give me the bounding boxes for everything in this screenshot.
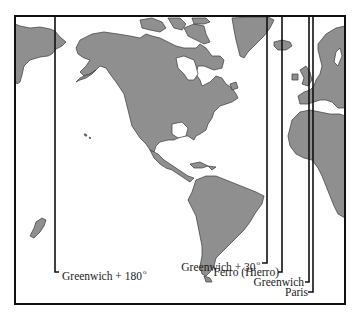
hawaii-islands xyxy=(84,134,91,139)
meridian-greenwich-30 xyxy=(262,16,267,263)
siberia-landmass xyxy=(15,24,66,84)
arctic-islands xyxy=(168,18,186,30)
new-zealand-landmass xyxy=(30,218,46,238)
meridian-ferro xyxy=(278,16,282,272)
label-text: Paris xyxy=(285,286,308,298)
british-isles xyxy=(300,66,312,86)
ireland xyxy=(292,74,298,80)
caribbean-islands xyxy=(190,162,208,168)
arctic-islands xyxy=(184,24,210,44)
north-america-landmass xyxy=(76,32,238,152)
arctic-islands xyxy=(140,18,166,32)
tierra-del-fuego xyxy=(204,276,212,282)
caribbean-islands xyxy=(208,166,216,170)
label-paris: Paris xyxy=(285,286,308,298)
label-text: Greenwich + 180 xyxy=(62,270,142,282)
arctic-islands xyxy=(192,18,210,24)
iceland-landmass xyxy=(274,40,292,50)
degree-symbol: o xyxy=(143,268,147,276)
central-america-landmass xyxy=(150,150,194,182)
label-greenwich-180: Greenwich + 180o xyxy=(62,266,146,282)
africa-landmass xyxy=(288,110,345,218)
meridian-map xyxy=(0,0,359,320)
meridian-greenwich-180 xyxy=(55,16,59,272)
